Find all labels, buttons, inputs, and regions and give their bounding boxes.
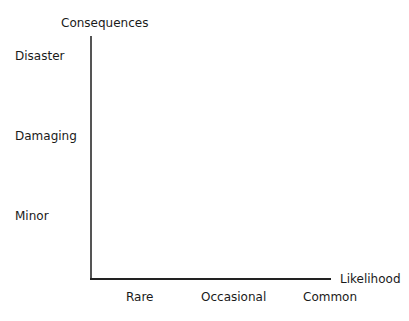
y-tick-damaging: Damaging — [15, 129, 77, 143]
y-tick-minor: Minor — [15, 209, 49, 223]
x-axis-line — [90, 278, 331, 280]
y-tick-disaster: Disaster — [15, 49, 64, 63]
y-axis-title: Consequences — [61, 16, 148, 30]
x-tick-occasional: Occasional — [201, 290, 266, 304]
x-axis-title: Likelihood — [340, 272, 401, 286]
x-tick-common: Common — [303, 290, 357, 304]
x-tick-rare: Rare — [126, 290, 153, 304]
y-axis-line — [90, 36, 92, 280]
